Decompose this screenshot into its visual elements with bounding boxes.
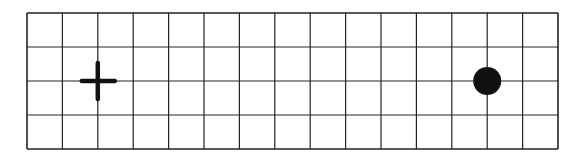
dot-marker-icon xyxy=(473,67,501,95)
grid-board xyxy=(0,0,581,157)
cross-marker-icon xyxy=(82,63,115,99)
